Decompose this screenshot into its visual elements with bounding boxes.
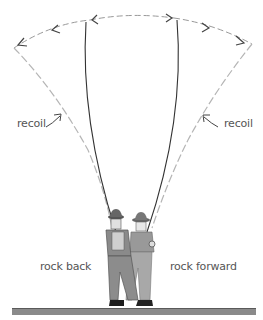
fishing-rods	[85, 20, 178, 232]
rock-forward-label: rock forward	[170, 260, 237, 273]
recoil-label-right: recoil	[224, 117, 253, 130]
rock-back-label: rock back	[40, 260, 91, 273]
recoil-lines	[14, 44, 252, 228]
arc-arrow-icons	[18, 14, 244, 46]
recoil-arrow-icons	[46, 114, 218, 127]
angler-figures	[106, 209, 155, 306]
ground-line	[12, 308, 256, 315]
casting-arc	[14, 15, 252, 48]
recoil-label-left: recoil	[17, 117, 46, 130]
fly-casting-diagram: recoil recoil rock back rock forward	[0, 0, 263, 320]
